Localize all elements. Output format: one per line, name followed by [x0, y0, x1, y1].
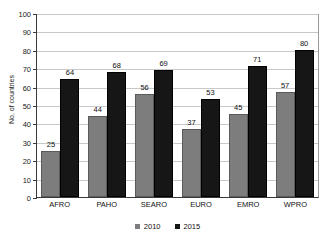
y-tick-mark	[33, 198, 37, 199]
bar-wrap: 56	[135, 14, 154, 197]
bar-value-label: 71	[253, 55, 261, 64]
x-axis-label-paho: PAHO	[87, 200, 127, 209]
x-axis-labels: AFROPAHOSEAROEUROEMROWPRO	[36, 200, 319, 209]
bar-value-label: 57	[281, 81, 289, 90]
bar-emro-2015[interactable]	[248, 66, 267, 197]
bar-searo-2010[interactable]	[135, 94, 154, 197]
bar-wrap: 64	[60, 14, 79, 197]
legend-item-2015[interactable]: 2015	[175, 222, 201, 231]
bar-value-label: 80	[300, 39, 308, 48]
y-tick-label: 20	[23, 157, 31, 166]
bar-wrap: 44	[88, 14, 107, 197]
y-tick-label: 10	[23, 175, 31, 184]
y-tick-label: 0	[27, 194, 31, 203]
bar-euro-2015[interactable]	[201, 99, 220, 197]
legend-label: 2010	[144, 222, 161, 231]
bar-wrap: 68	[107, 14, 126, 197]
chart-legend: 20102015	[0, 222, 335, 231]
bar-group-euro: 3753	[182, 14, 220, 197]
bar-value-label: 37	[187, 118, 195, 127]
bar-searo-2015[interactable]	[154, 70, 173, 197]
bar-value-label: 68	[113, 61, 121, 70]
bar-group-wpro: 5780	[276, 14, 314, 197]
bar-euro-2010[interactable]	[182, 129, 201, 197]
bar-paho-2015[interactable]	[107, 72, 126, 197]
bar-value-label: 44	[94, 105, 102, 114]
y-tick-label: 30	[23, 138, 31, 147]
bar-wpro-2015[interactable]	[295, 50, 314, 197]
bar-wrap: 69	[154, 14, 173, 197]
legend-item-2010[interactable]: 2010	[135, 222, 161, 231]
bar-value-label: 64	[66, 68, 74, 77]
bar-emro-2010[interactable]	[229, 114, 248, 197]
x-axis-label-euro: EURO	[181, 200, 221, 209]
y-tick-label: 60	[23, 83, 31, 92]
y-tick-label: 50	[23, 102, 31, 111]
bar-value-label: 56	[140, 83, 148, 92]
bar-group-afro: 2564	[41, 14, 79, 197]
bar-value-label: 25	[47, 140, 55, 149]
y-tick-label: 40	[23, 120, 31, 129]
y-tick-label: 90	[23, 28, 31, 37]
x-axis-label-searo: SEARO	[134, 200, 174, 209]
bar-wrap: 71	[248, 14, 267, 197]
bar-wpro-2010[interactable]	[276, 92, 295, 197]
bar-value-label: 53	[206, 88, 214, 97]
bar-wrap: 80	[295, 14, 314, 197]
x-axis-label-afro: AFRO	[40, 200, 80, 209]
y-axis-title: No. of countries	[8, 55, 15, 145]
bar-afro-2010[interactable]	[41, 151, 60, 197]
bar-wrap: 37	[182, 14, 201, 197]
bar-wrap: 25	[41, 14, 60, 197]
bar-value-label: 69	[159, 59, 167, 68]
y-tick-label: 80	[23, 46, 31, 55]
legend-label: 2015	[184, 222, 201, 231]
bar-chart: No. of countries 1009080706050403020100 …	[0, 0, 335, 247]
y-tick-label: 100	[18, 10, 31, 19]
x-axis-label-emro: EMRO	[228, 200, 268, 209]
x-axis-label-wpro: WPRO	[275, 200, 315, 209]
bar-wrap: 53	[201, 14, 220, 197]
bar-paho-2010[interactable]	[88, 116, 107, 197]
bar-wrap: 57	[276, 14, 295, 197]
bar-value-label: 45	[234, 103, 242, 112]
bar-group-paho: 4468	[88, 14, 126, 197]
legend-swatch-icon	[135, 224, 140, 229]
bar-wrap: 45	[229, 14, 248, 197]
bar-afro-2015[interactable]	[60, 79, 79, 197]
bars-layer: 256444685669375345715780	[37, 14, 318, 197]
bar-group-searo: 5669	[135, 14, 173, 197]
y-tick-label: 70	[23, 65, 31, 74]
bar-group-emro: 4571	[229, 14, 267, 197]
plot-area: 1009080706050403020100 25644468566937534…	[36, 14, 319, 198]
legend-swatch-icon	[175, 224, 180, 229]
